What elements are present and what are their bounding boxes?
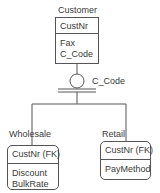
entity-customer[interactable]: CustNr Fax C_Code (55, 17, 99, 64)
discriminator-label: C_Code (92, 76, 125, 86)
attribute: BulkRate (12, 179, 58, 190)
category-circle-icon (70, 74, 84, 88)
entity-name-retail: Retail (102, 129, 125, 139)
key-attribute: CustNr (FK) (101, 142, 150, 160)
entity-name-wholesale: Wholesale (9, 129, 51, 139)
attribute: C_Code (60, 49, 98, 60)
entity-retail[interactable]: CustNr (FK) PayMethod (100, 141, 151, 180)
attribute-list: PayMethod (101, 160, 150, 175)
attribute: PayMethod (105, 164, 150, 175)
attribute-list: Fax C_Code (56, 34, 98, 60)
entity-name-customer: Customer (58, 5, 97, 15)
attribute-list: Discount BulkRate (8, 164, 58, 190)
key-attribute: CustNr (FK) (8, 146, 58, 164)
key-attribute: CustNr (56, 18, 98, 34)
entity-wholesale[interactable]: CustNr (FK) Discount BulkRate (7, 145, 59, 190)
attribute: Discount (12, 168, 58, 179)
attribute: Fax (60, 38, 98, 49)
